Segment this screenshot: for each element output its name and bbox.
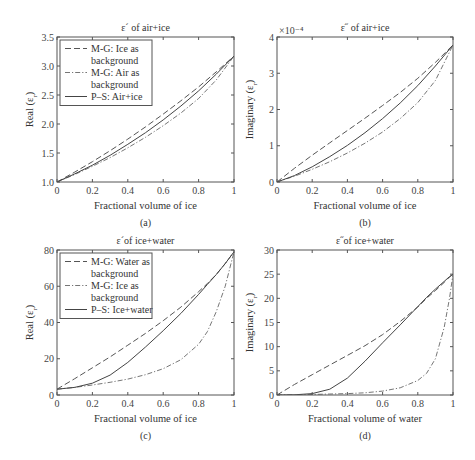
x-axis-label: Fractional volume of water [308, 413, 423, 424]
series-solid [277, 274, 453, 395]
y-tick-label: 3 [269, 68, 274, 79]
legend-entry: M-G: Ice as [91, 280, 139, 291]
chart-panel-2: 00.20.40.60.8101234×10⁻⁴ε˝ of air+iceFra… [244, 22, 456, 229]
x-tick-label: 0.4 [341, 185, 354, 196]
y-tick-label: 3.5 [42, 32, 55, 43]
legend-entry: P–S: Ice+water [91, 304, 153, 315]
y-axis-label: Imaginary (εr) [244, 292, 259, 352]
panel-label: (d) [359, 430, 371, 442]
y-tick-label: 30 [264, 245, 274, 256]
x-tick-label: 0 [275, 185, 280, 196]
chart-title: ε´ of air+ice [121, 22, 170, 33]
legend-entry: background [91, 55, 138, 66]
legend-entry: M-G: Water as [91, 256, 150, 267]
y-tick-label: 1.5 [42, 148, 55, 159]
x-tick-label: 0.6 [157, 398, 170, 409]
x-tick-label: 0.4 [122, 185, 135, 196]
y-tick-label: 1 [269, 140, 274, 151]
y-axis-label: Imaginary (εr) [244, 79, 259, 139]
x-tick-label: 1 [232, 398, 237, 409]
x-axis-label: Fractional volume of ice [94, 413, 197, 424]
legend-entry: P–S: Air+ice [91, 91, 143, 102]
axes-frame [277, 37, 453, 182]
x-tick-label: 0.8 [412, 185, 425, 196]
panel-label: (b) [359, 217, 371, 229]
y-tick-label: 25 [264, 269, 274, 280]
x-tick-label: 0.8 [192, 398, 205, 409]
y-multiplier: ×10⁻⁴ [279, 25, 304, 36]
x-tick-label: 0.6 [157, 185, 170, 196]
y-tick-label: 2.5 [42, 90, 55, 101]
y-tick-label: 15 [264, 317, 274, 328]
x-axis-label: Fractional volume of ice [314, 200, 417, 211]
chart-title: ε˝of ice+water [336, 235, 395, 246]
y-tick-label: 5 [269, 365, 274, 376]
panel-label: (c) [140, 430, 151, 442]
x-tick-label: 0.2 [86, 398, 99, 409]
y-axis-label: Real (εr) [24, 304, 39, 340]
x-tick-label: 0.4 [122, 398, 135, 409]
y-tick-label: 20 [44, 353, 54, 364]
y-tick-label: 0 [49, 390, 54, 401]
x-tick-label: 0.8 [192, 185, 205, 196]
x-tick-label: 0.2 [86, 185, 99, 196]
y-tick-label: 2.0 [42, 119, 55, 130]
chart-panel-3: 00.20.40.60.81020406080ε´of ice+waterFra… [24, 235, 237, 442]
x-tick-label: 0.6 [376, 185, 389, 196]
legend-entry: M-G: Ice as [91, 43, 139, 54]
chart-panel-4: 00.20.40.60.81051015202530ε˝of ice+water… [244, 235, 456, 442]
x-tick-label: 1 [451, 185, 456, 196]
series-dash [277, 274, 453, 395]
legend-entry: background [91, 268, 138, 279]
chart-title: ε´of ice+water [117, 235, 176, 246]
series-dash [277, 45, 453, 182]
legend-entry: M-G: Air as [91, 67, 139, 78]
chart-title: ε˝ of air+ice [341, 22, 390, 33]
x-tick-label: 0 [55, 398, 60, 409]
y-tick-label: 3.0 [42, 61, 55, 72]
y-tick-label: 40 [44, 317, 54, 328]
legend-entry: background [91, 79, 138, 90]
series-dashdot [277, 45, 453, 182]
y-tick-label: 2 [269, 104, 274, 115]
x-tick-label: 0.4 [341, 398, 354, 409]
legend-entry: background [91, 292, 138, 303]
x-tick-label: 0.8 [412, 398, 425, 409]
y-tick-label: 20 [264, 293, 274, 304]
y-tick-label: 1.0 [42, 177, 55, 188]
chart-panel-1: 00.20.40.60.811.01.52.02.53.03.5ε´ of ai… [24, 22, 237, 229]
y-tick-label: 60 [44, 281, 54, 292]
y-tick-label: 80 [44, 245, 54, 256]
x-tick-label: 0.2 [306, 185, 319, 196]
y-tick-label: 0 [269, 390, 274, 401]
x-tick-label: 1 [451, 398, 456, 409]
x-tick-label: 0.2 [306, 398, 319, 409]
y-tick-label: 0 [269, 177, 274, 188]
y-tick-label: 4 [269, 32, 274, 43]
figure: 00.20.40.60.811.01.52.02.53.03.5ε´ of ai… [0, 0, 475, 460]
x-tick-label: 0 [275, 398, 280, 409]
y-axis-label: Real (εr) [24, 91, 39, 127]
x-tick-label: 1 [232, 185, 237, 196]
series-solid [277, 45, 453, 182]
x-tick-label: 0.6 [376, 398, 389, 409]
x-axis-label: Fractional volume of ice [94, 200, 197, 211]
y-tick-label: 10 [264, 341, 274, 352]
x-tick-label: 0 [55, 185, 60, 196]
panel-label: (a) [140, 217, 151, 229]
series-dashdot [277, 274, 453, 395]
